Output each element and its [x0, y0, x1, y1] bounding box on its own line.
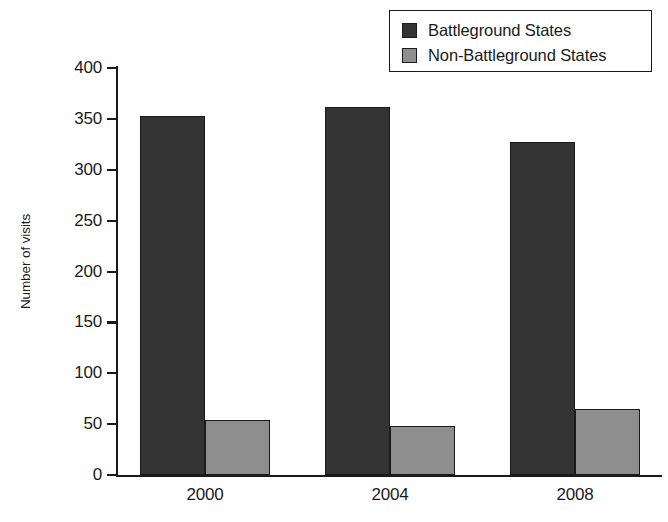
y-tick-mark — [107, 474, 117, 476]
legend-item-battleground-states: Battleground States — [402, 18, 641, 42]
bar-2000-battleground — [140, 116, 205, 475]
bar-2004-battleground — [325, 107, 390, 475]
y-axis-title: Number of visits — [0, 0, 40, 522]
y-tick-label: 100 — [74, 363, 102, 383]
y-axis-title-text: Number of visits — [19, 213, 34, 308]
bar-2008-non-battleground — [575, 409, 640, 475]
y-tick-mark — [107, 372, 117, 374]
y-tick-mark — [107, 169, 117, 171]
chart-legend: Battleground States Non-Battleground Sta… — [389, 10, 652, 72]
y-tick-label: 350 — [74, 109, 102, 129]
y-tick-mark — [107, 271, 117, 273]
bar-2000-non-battleground — [205, 420, 270, 475]
y-tick-mark — [107, 321, 117, 323]
legend-label-battleground-states: Battleground States — [428, 22, 571, 39]
y-tick-label: 250 — [74, 211, 102, 231]
y-tick-mark — [107, 423, 117, 425]
legend-label-non-battleground-states: Non-Battleground States — [428, 47, 606, 64]
y-tick-label: 50 — [83, 414, 102, 434]
legend-item-non-battleground-states: Non-Battleground States — [402, 43, 641, 67]
y-tick-label: 200 — [74, 262, 102, 282]
legend-swatch-non-battleground-states — [402, 48, 417, 63]
bar-chart: Battleground States Non-Battleground Sta… — [0, 0, 668, 522]
y-tick-label: 0 — [93, 465, 102, 485]
y-tick-mark — [107, 220, 117, 222]
x-category-label-2000: 2000 — [186, 485, 223, 505]
plot-area: 050100150200250300350400 200020042008 — [116, 68, 662, 475]
y-tick-label: 400 — [74, 58, 102, 78]
x-category-label-2008: 2008 — [556, 485, 593, 505]
legend-swatch-battleground-states — [402, 23, 417, 38]
x-category-label-2004: 2004 — [371, 485, 408, 505]
y-tick-label: 150 — [74, 312, 102, 332]
y-tick-mark — [107, 67, 117, 69]
y-tick-mark — [107, 118, 117, 120]
bar-2004-non-battleground — [390, 426, 455, 475]
x-axis-line — [116, 475, 662, 477]
y-tick-label: 300 — [74, 160, 102, 180]
bar-2008-battleground — [510, 142, 575, 475]
